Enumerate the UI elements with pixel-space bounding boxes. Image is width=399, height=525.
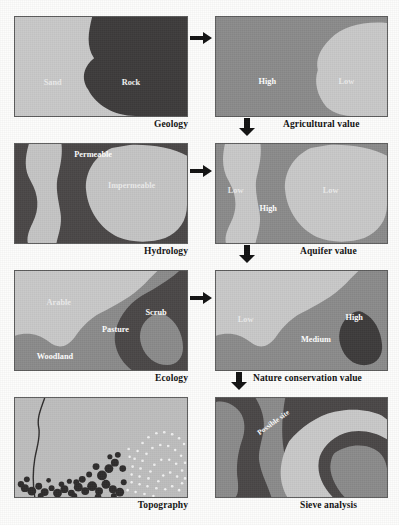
label-sand: Sand [44, 78, 62, 87]
region-rock [84, 17, 187, 116]
region-slope-face [15, 398, 187, 497]
panel-geology: Sand Rock [14, 16, 188, 117]
panel-hydrology: Permeable Impermeable [14, 143, 188, 244]
arrow-down-icon [231, 372, 247, 390]
caption-agricultural-value: Agricultural value [283, 119, 359, 129]
label-arable: Arable [47, 298, 72, 307]
hydrology-map: Permeable Impermeable [15, 144, 187, 243]
sieve-analysis-map: Possible site [216, 398, 387, 497]
label-low: Low [238, 315, 254, 324]
label-medium: Medium [301, 335, 331, 344]
panel-sieve-analysis: Possible site [215, 397, 388, 498]
caption-hydrology: Hydrology [88, 246, 188, 256]
label-rock: Rock [122, 78, 141, 87]
arrow-geology-to-agricultural [190, 31, 212, 45]
topography-map [15, 398, 187, 497]
label-high: High [259, 77, 277, 86]
arrow-aquifer-to-nature [239, 245, 255, 263]
arrow-right-icon [190, 291, 212, 305]
agricultural-value-map: High Low [216, 17, 387, 116]
arrow-hydrology-to-aquifer [190, 164, 212, 178]
ecology-map: Arable Pasture Scrub Woodland [15, 271, 187, 370]
panel-agricultural-value: High Low [215, 16, 388, 117]
label-impermeable: Impermeable [108, 181, 156, 190]
arrow-right-icon [190, 164, 212, 178]
geology-map: Sand Rock [15, 17, 187, 116]
arrow-down-icon [239, 118, 255, 136]
panel-topography [14, 397, 188, 498]
label-permeable: Permeable [74, 150, 112, 159]
caption-nature-conservation-value: Nature conservation value [253, 373, 362, 383]
caption-sieve-analysis: Sieve analysis [300, 500, 357, 510]
label-woodland: Woodland [37, 352, 74, 361]
arrow-right-icon [190, 31, 212, 45]
caption-ecology: Ecology [88, 373, 188, 383]
region-constrained-b-east [330, 446, 387, 497]
label-pasture: Pasture [102, 325, 129, 334]
label-low: Low [339, 77, 355, 86]
arrow-down-icon [239, 245, 255, 263]
panel-ecology: Arable Pasture Scrub Woodland [14, 270, 188, 371]
panel-aquifer-value: Low High Low [215, 143, 388, 244]
caption-aquifer-value: Aquifer value [300, 246, 357, 256]
arrow-ecology-to-nature [190, 291, 212, 305]
arrow-agricultural-to-aquifer [239, 118, 255, 136]
label-high: High [259, 204, 277, 213]
caption-geology: Geology [88, 119, 188, 129]
label-scrub: Scrub [145, 308, 167, 317]
nature-conservation-map: Low Medium High [216, 271, 387, 370]
label-low-west: Low [228, 186, 244, 195]
caption-topography: Topography [88, 500, 188, 510]
arrow-nature-to-sieve [231, 372, 247, 390]
aquifer-value-map: Low High Low [216, 144, 387, 243]
label-high: High [345, 313, 363, 322]
label-low-east: Low [323, 186, 339, 195]
panel-nature-conservation-value: Low Medium High [215, 270, 388, 371]
